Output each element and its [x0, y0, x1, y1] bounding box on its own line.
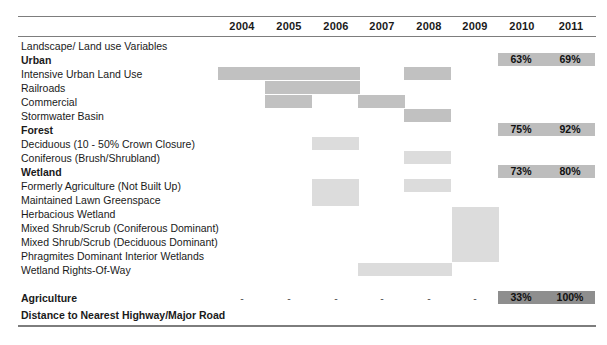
column-header-2008: 2008 — [406, 20, 452, 32]
percent-bar: 63%69% — [498, 53, 595, 66]
row-label: Coniferous (Brush/Shrubland) — [21, 152, 160, 165]
span-bar — [358, 263, 452, 276]
percent-bar: 75%92% — [498, 123, 595, 136]
landuse-timeline-table: 20042005200620072008200920102011 Landsca… — [0, 0, 607, 345]
percent-bar: 33%100% — [498, 291, 595, 304]
row-label: Stormwater Basin — [21, 110, 104, 123]
percent-value-2010: 73% — [498, 165, 544, 178]
percent-value-2011: 80% — [547, 165, 593, 178]
row-label: Maintained Lawn Greenspace — [21, 194, 161, 207]
row-label: Herbacious Wetland — [21, 208, 115, 221]
span-bar — [404, 179, 451, 192]
span-bar — [404, 109, 451, 122]
percent-value-2010: 33% — [498, 291, 544, 304]
row-label: Agriculture — [21, 292, 77, 305]
percent-value-2011: 100% — [547, 291, 593, 304]
row-label: Distance to Nearest Highway/Major Road — [21, 309, 225, 322]
row-label: Wetland — [21, 166, 62, 179]
dash-marker: - — [219, 292, 265, 304]
span-bar — [218, 67, 360, 80]
row-label: Landscape/ Land use Variables — [21, 40, 167, 53]
column-header-2007: 2007 — [359, 20, 405, 32]
header-rule — [18, 36, 596, 37]
span-bar — [358, 95, 405, 108]
row-label: Mixed Shrub/Scrub (Coniferous Dominant) — [21, 222, 219, 235]
span-bar — [404, 151, 451, 164]
dash-marker: - — [266, 292, 312, 304]
row-label: Commercial — [21, 96, 77, 109]
dash-marker: - — [359, 292, 405, 304]
span-bar — [265, 95, 312, 108]
span-bar — [404, 67, 451, 80]
row-label: Railroads — [21, 82, 65, 95]
dash-marker: - — [406, 292, 452, 304]
column-header-2006: 2006 — [313, 20, 359, 32]
span-bar — [452, 207, 499, 262]
span-bar — [312, 179, 359, 206]
table-top-rule — [18, 16, 596, 17]
column-header-2009: 2009 — [452, 20, 498, 32]
percent-bar: 73%80% — [498, 165, 595, 178]
percent-value-2011: 69% — [547, 53, 593, 66]
column-header-2010: 2010 — [499, 20, 545, 32]
column-header-2005: 2005 — [266, 20, 312, 32]
percent-value-2010: 63% — [498, 53, 544, 66]
dash-marker: - — [313, 292, 359, 304]
table-bottom-rule — [18, 325, 596, 327]
row-label: Forest — [21, 124, 53, 137]
dash-marker: - — [452, 292, 498, 304]
row-label: Mixed Shrub/Scrub (Deciduous Dominant) — [21, 236, 218, 249]
row-label: Deciduous (10 - 50% Crown Closure) — [21, 138, 195, 151]
row-label: Formerly Agriculture (Not Built Up) — [21, 180, 181, 193]
row-label: Intensive Urban Land Use — [21, 68, 142, 81]
row-label: Wetland Rights-Of-Way — [21, 264, 131, 277]
column-header-2011: 2011 — [548, 20, 594, 32]
percent-value-2011: 92% — [547, 123, 593, 136]
span-bar — [312, 137, 359, 150]
column-header-2004: 2004 — [219, 20, 265, 32]
row-label: Phragmites Dominant Interior Wetlands — [21, 250, 204, 263]
row-label: Urban — [21, 54, 51, 67]
span-bar — [265, 81, 360, 94]
percent-value-2010: 75% — [498, 123, 544, 136]
